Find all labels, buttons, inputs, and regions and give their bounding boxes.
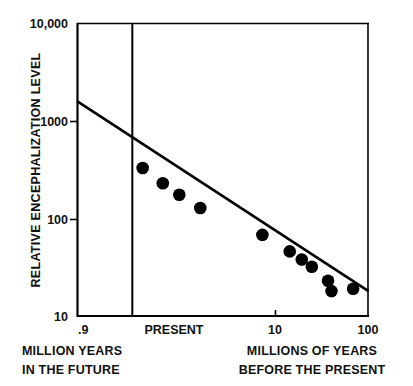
caption-right-line2: BEFORE THE PRESENT	[239, 363, 386, 377]
data-point	[347, 283, 360, 296]
y-axis-title: RELATIVE ENCEPHALIZATION LEVEL	[29, 52, 43, 287]
data-point	[295, 253, 308, 266]
caption-left-line2: IN THE FUTURE	[22, 363, 120, 377]
data-point	[136, 162, 149, 175]
data-point	[306, 260, 319, 273]
caption-left-line1: MILLION YEARS	[22, 344, 122, 358]
y-tick-label-1000: 1000	[40, 115, 68, 129]
data-point	[194, 202, 207, 215]
data-point	[256, 229, 269, 242]
data-point	[283, 245, 296, 258]
caption-right-line1: MILLIONS OF YEARS	[247, 344, 377, 358]
chart-canvas: 10,000 1000 100 10 .9 PRESENT 10 100 REL…	[0, 0, 413, 386]
x-tick-label-100: 100	[358, 323, 379, 337]
x-tick-label-present: PRESENT	[144, 323, 203, 337]
data-point	[173, 189, 186, 202]
data-point	[156, 177, 169, 190]
chart-background	[0, 0, 413, 386]
y-tick-label-10000: 10,000	[30, 17, 68, 31]
encephalization-chart-figure: 10,000 1000 100 10 .9 PRESENT 10 100 REL…	[0, 0, 413, 386]
x-tick-label-09: .9	[78, 323, 88, 337]
y-tick-label-100: 100	[47, 213, 68, 227]
data-point	[325, 285, 338, 298]
y-tick-label-10: 10	[54, 310, 68, 324]
x-tick-label-10: 10	[268, 323, 282, 337]
